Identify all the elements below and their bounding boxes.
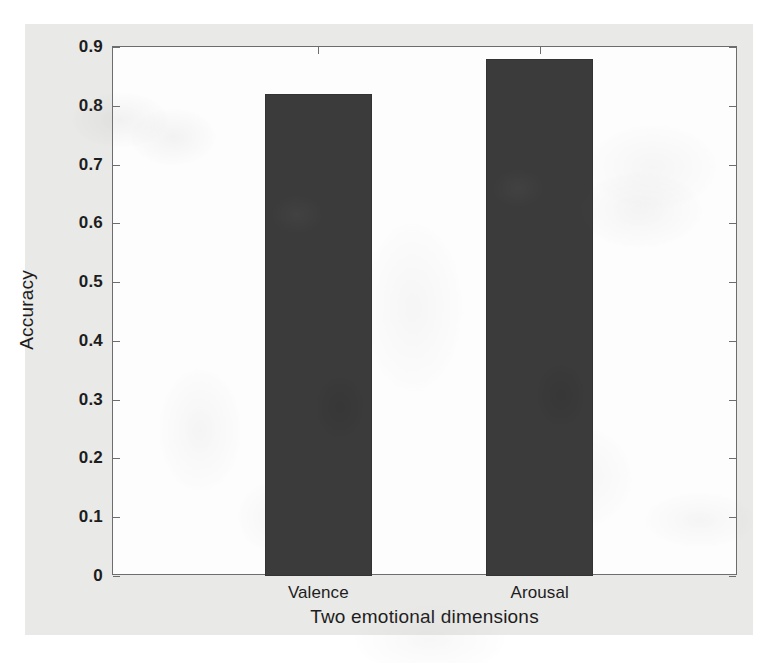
y-tick-mark (113, 458, 120, 459)
y-tick-mark-right (729, 341, 736, 342)
y-tick-mark (113, 223, 120, 224)
y-tick-mark-right (729, 282, 736, 283)
y-tick-mark (113, 400, 120, 401)
y-tick-label: 0.8 (79, 96, 103, 116)
x-tick-mark-top (318, 47, 319, 54)
x-tick-label: Arousal (510, 583, 568, 603)
bar-valence (265, 94, 372, 576)
y-tick-label: 0.4 (79, 331, 103, 351)
y-tick-label: 0.6 (79, 213, 103, 233)
y-tick-mark-right (729, 106, 736, 107)
y-tick-mark-right (729, 400, 736, 401)
y-tick-label: 0.7 (79, 155, 103, 175)
plot-area: 00.10.20.30.40.50.60.70.80.9 ValenceArou… (112, 46, 737, 575)
x-axis-title: Two emotional dimensions (112, 606, 737, 628)
y-tick-label: 0 (93, 566, 103, 586)
figure: 00.10.20.30.40.50.60.70.80.9 ValenceArou… (0, 0, 777, 663)
y-tick-label: 0.2 (79, 448, 103, 468)
y-tick-mark (113, 47, 120, 48)
y-tick-mark-right (729, 223, 736, 224)
y-tick-mark-right (729, 165, 736, 166)
y-tick-mark-right (729, 458, 736, 459)
y-tick-mark (113, 576, 120, 577)
y-tick-mark-right (729, 47, 736, 48)
y-axis-title: Accuracy (16, 270, 38, 350)
bar-arousal (486, 59, 593, 576)
y-tick-mark (113, 106, 120, 107)
x-tick-label: Valence (288, 583, 349, 603)
y-tick-label: 0.5 (79, 272, 103, 292)
scan-texture-plot (113, 47, 736, 574)
y-tick-mark (113, 282, 120, 283)
y-tick-mark (113, 341, 120, 342)
x-tick-mark-top (540, 47, 541, 54)
y-tick-mark (113, 517, 120, 518)
y-tick-label: 0.9 (79, 37, 103, 57)
y-tick-label: 0.3 (79, 390, 103, 410)
y-tick-mark (113, 165, 120, 166)
y-tick-mark-right (729, 576, 736, 577)
y-tick-mark-right (729, 517, 736, 518)
y-tick-label: 0.1 (79, 507, 103, 527)
